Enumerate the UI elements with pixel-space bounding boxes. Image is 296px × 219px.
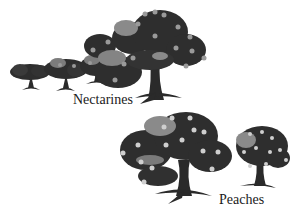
nectarine-tree-small-1 (10, 64, 50, 90)
peaches-label: Peaches (219, 193, 264, 207)
orchard-illustration (0, 0, 296, 219)
peach-trees (120, 112, 290, 204)
nectarines-label: Nectarines (73, 93, 133, 107)
peach-tree-small (236, 126, 290, 188)
nectarine-tree-large (112, 10, 207, 105)
peach-tree-large (120, 112, 232, 204)
nectarine-trees (10, 10, 207, 105)
